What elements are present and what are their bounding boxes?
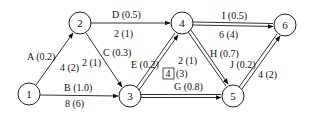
node-2-label: 2 [77, 17, 83, 29]
edge-E-name: E (0.2) [131, 59, 159, 71]
node-4: 4 [171, 12, 193, 34]
edge-G-name: G (0.8) [174, 81, 203, 93]
edge-B-name: B (1.0) [64, 82, 92, 94]
edge-D-name: D (0.5) [112, 9, 141, 21]
edge-E-box-value: 4 [166, 68, 171, 79]
edge-C-name: C (0.3) [103, 47, 131, 59]
edge-J-name: J (0.2) [230, 59, 256, 71]
node-1-label: 1 [26, 88, 32, 100]
node-6: 6 [274, 14, 296, 36]
edge-B [40, 95, 118, 96]
edge-G [141, 95, 221, 98]
edge-I-value: 6 (4) [219, 29, 238, 41]
edge-B-value: 8 (6) [65, 98, 84, 110]
node-5-label: 5 [230, 90, 236, 102]
node-3-label: 3 [127, 90, 133, 102]
node-6-label: 6 [282, 19, 288, 31]
edge-H-value: 2 (1) [178, 55, 197, 67]
node-5: 5 [222, 85, 244, 107]
edge-A-name: A (0.2) [27, 51, 55, 63]
edge-J-value: 4 (2) [258, 69, 277, 81]
edge-I-name: I (0.5) [222, 10, 247, 22]
network-diagram: 1 2 3 4 5 6 A (0.2) 4 (2) B (1.0) 8 (6) … [0, 0, 311, 115]
edge-C-value: 2 (1) [82, 57, 101, 69]
edge-A-value: 4 (2) [60, 62, 79, 74]
edge-E-suffix: (3) [176, 68, 188, 80]
node-2: 2 [69, 12, 91, 34]
edge-D-value: 2 (1) [114, 28, 133, 40]
node-4-label: 4 [179, 17, 185, 29]
node-3: 3 [119, 85, 141, 107]
edge-I [193, 22, 273, 27]
node-1: 1 [18, 83, 40, 105]
